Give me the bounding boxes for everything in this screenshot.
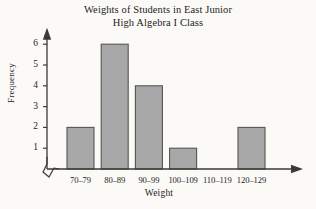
y-tick-label-6: 6 [24, 39, 38, 49]
bar-100-109 [170, 148, 197, 169]
y-tick-label-4: 4 [24, 81, 38, 91]
y-tick-label-3: 3 [24, 102, 38, 112]
axis-break-zigzag-icon [43, 157, 59, 177]
bar-90-99 [135, 86, 162, 169]
bar-120-129 [238, 127, 265, 169]
x-axis-label: Weight [44, 188, 274, 198]
y-tick-label-5: 5 [24, 60, 38, 70]
bar-80-89 [101, 44, 128, 169]
y-tick-label-1: 1 [24, 143, 38, 153]
y-axis-label: Frequency [6, 48, 16, 118]
histogram-figure: Weights of Students in East Junior High … [0, 0, 316, 209]
bars-group [67, 44, 265, 169]
x-tick-label-120-129: 120–129 [227, 176, 277, 185]
y-axis-arrow-icon [43, 28, 51, 40]
y-tick-label-2: 2 [24, 122, 38, 132]
x-axis-arrow-icon [291, 165, 303, 173]
bar-70-79 [67, 127, 94, 169]
